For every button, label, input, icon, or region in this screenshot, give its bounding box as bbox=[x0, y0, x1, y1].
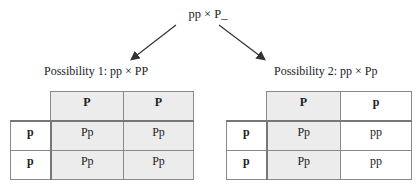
possibility-2-label: Possibility 2: pp × Pp bbox=[274, 64, 377, 79]
col-header: P bbox=[267, 92, 341, 122]
col-header: P bbox=[124, 92, 194, 122]
corner-blank bbox=[227, 92, 267, 122]
arrow-to-possibility-2 bbox=[219, 25, 264, 59]
row-header: p bbox=[11, 121, 51, 151]
cell: pp bbox=[341, 151, 412, 180]
header-row: P p bbox=[227, 92, 412, 122]
cell: Pp bbox=[124, 121, 194, 151]
col-header: P bbox=[51, 92, 124, 122]
corner-blank bbox=[11, 92, 51, 122]
cell: pp bbox=[341, 121, 412, 151]
row-header: p bbox=[227, 151, 267, 180]
punnett-square-2: P p p Pp pp p Pp pp bbox=[226, 91, 412, 180]
table-row: p Pp Pp bbox=[11, 121, 194, 151]
table-row: p Pp pp bbox=[227, 151, 412, 180]
header-row: P P bbox=[11, 92, 194, 122]
table-row: p Pp pp bbox=[227, 121, 412, 151]
cell: Pp bbox=[51, 121, 124, 151]
cell: Pp bbox=[267, 151, 341, 180]
table-row: p Pp Pp bbox=[11, 151, 194, 180]
col-header: p bbox=[341, 92, 412, 122]
cell: Pp bbox=[51, 151, 124, 180]
arrow-to-possibility-1 bbox=[132, 25, 176, 59]
row-header: p bbox=[11, 151, 51, 180]
row-header: p bbox=[227, 121, 267, 151]
cell: Pp bbox=[124, 151, 194, 180]
cell: Pp bbox=[267, 121, 341, 151]
punnett-square-1: P P p Pp Pp p Pp Pp bbox=[10, 91, 194, 180]
possibility-1-label: Possibility 1: pp × PP bbox=[44, 64, 148, 79]
